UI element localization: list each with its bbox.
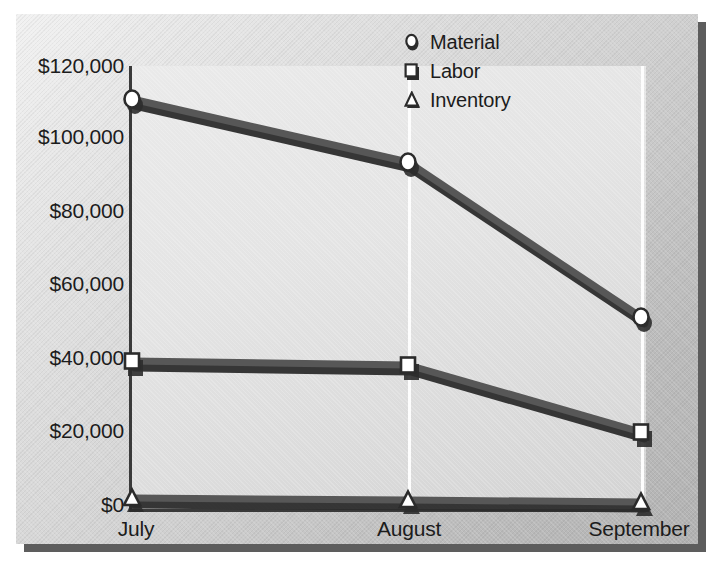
y-tick-label-100000: $100,000 xyxy=(38,125,124,149)
legend-item-inventory: Inventory xyxy=(404,88,510,112)
circle-marker-icon xyxy=(404,33,421,52)
y-axis-labels: $120,000 $100,000 $80,000 $60,000 $40,00… xyxy=(16,14,124,544)
legend-label-inventory: Inventory xyxy=(430,89,510,112)
chart-frame: $120,000 $100,000 $80,000 $60,000 $40,00… xyxy=(16,14,698,544)
marker-labor-september xyxy=(634,425,648,440)
y-tick-label-40000: $40,000 xyxy=(49,346,124,370)
series-material xyxy=(125,91,653,333)
legend-label-material: Material xyxy=(430,31,500,54)
series-inventory xyxy=(124,490,653,517)
chart-page: $120,000 $100,000 $80,000 $60,000 $40,00… xyxy=(0,0,717,582)
marker-labor-august xyxy=(401,358,415,373)
y-tick-label-120000: $120,000 xyxy=(38,54,124,78)
marker-material-september xyxy=(634,309,649,326)
square-marker-icon xyxy=(404,62,421,81)
y-tick-label-60000: $60,000 xyxy=(49,272,124,296)
series-plot xyxy=(132,66,646,509)
marker-material-july xyxy=(125,91,140,108)
y-tick-label-0: $0 xyxy=(101,493,124,517)
legend-item-material: Material xyxy=(404,30,510,54)
y-tick-label-20000: $20,000 xyxy=(49,419,124,443)
x-tick-label-september: September xyxy=(589,517,690,541)
legend-label-labor: Labor xyxy=(430,60,480,83)
series-labor xyxy=(125,354,652,448)
plot-area xyxy=(132,66,646,509)
legend-item-labor: Labor xyxy=(404,59,510,83)
triangle-marker-icon xyxy=(404,91,421,110)
chart-legend: Material Labor Inventory xyxy=(404,30,510,112)
marker-labor-july xyxy=(125,354,139,369)
marker-material-august xyxy=(401,154,416,171)
y-tick-label-80000: $80,000 xyxy=(49,199,124,223)
x-tick-label-august: August xyxy=(377,517,441,541)
x-tick-label-july: July xyxy=(118,517,155,541)
